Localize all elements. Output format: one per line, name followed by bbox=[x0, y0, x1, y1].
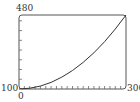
x-max-label: 300 bbox=[127, 84, 140, 93]
x-min-label: 0 bbox=[18, 92, 24, 101]
plot-frame bbox=[19, 15, 126, 89]
chart-plot bbox=[0, 0, 140, 102]
y-max-label: 480 bbox=[16, 4, 33, 13]
y-min-label: 100 bbox=[1, 84, 18, 93]
data-curve bbox=[19, 15, 126, 89]
